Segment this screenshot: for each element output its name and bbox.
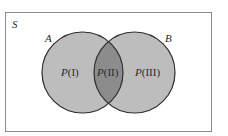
- region-i-label: P(I): [60, 66, 79, 79]
- set-a-label: A: [44, 32, 52, 44]
- region-iii-label: P(III): [134, 66, 160, 79]
- venn-diagram: S A B P(I) P(II) P(III): [0, 0, 228, 136]
- region-ii-label: P(II): [96, 66, 119, 79]
- universe-label: S: [12, 18, 18, 30]
- set-b-label: B: [165, 32, 172, 44]
